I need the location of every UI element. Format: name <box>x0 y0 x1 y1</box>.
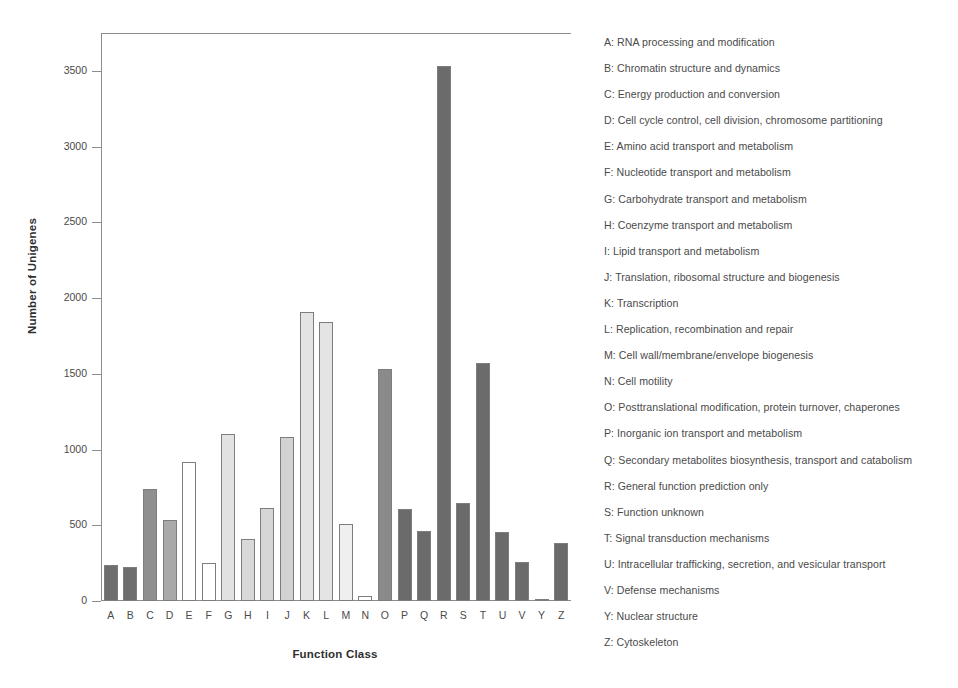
x-axis-tick-label: U <box>493 609 511 621</box>
legend-item: N: Cell motility <box>604 375 952 401</box>
x-axis-tick-label: C <box>141 609 159 621</box>
y-axis-tick: 3000 <box>92 147 101 148</box>
x-axis-tick-label: N <box>356 609 374 621</box>
x-axis-tick-label: S <box>454 609 472 621</box>
bar-u <box>495 532 509 601</box>
x-axis-tick-label: I <box>258 609 276 621</box>
bar-t <box>476 363 490 601</box>
x-axis-tick-label: R <box>435 609 453 621</box>
legend-item: M: Cell wall/membrane/envelope biogenesi… <box>604 349 952 375</box>
plot-area: 0500100015002000250030003500 <box>101 33 571 601</box>
legend-item: K: Transcription <box>604 297 952 323</box>
bar-j <box>280 437 294 601</box>
x-axis-title: Function Class <box>100 648 570 660</box>
bar-p <box>398 509 412 601</box>
legend-item: Y: Nuclear structure <box>604 610 952 636</box>
bar-q <box>417 531 431 601</box>
y-axis-tick-label: 3000 <box>64 140 87 152</box>
legend-item: I: Lipid transport and metabolism <box>604 245 952 271</box>
y-axis-tick-label: 1000 <box>64 443 87 455</box>
cog-function-classification-chart: Number of Unigenes 050010001500200025003… <box>0 0 600 688</box>
legend-item: O: Posttranslational modification, prote… <box>604 401 952 427</box>
y-axis-tick-label: 2500 <box>64 215 87 227</box>
x-axis-tick-label: T <box>474 609 492 621</box>
bar-l <box>319 322 333 601</box>
legend-item: U: Intracellular trafficking, secretion,… <box>604 558 952 584</box>
legend-item: A: RNA processing and modification <box>604 36 952 62</box>
x-axis-tick-label: O <box>376 609 394 621</box>
bar-o <box>378 369 392 602</box>
bar-a <box>104 565 118 601</box>
bar-h <box>241 539 255 601</box>
legend-item: T: Signal transduction mechanisms <box>604 532 952 558</box>
bar-f <box>202 563 216 601</box>
bar-series <box>101 33 571 601</box>
x-axis-tick-label: J <box>278 609 296 621</box>
x-axis-tick-label: E <box>180 609 198 621</box>
legend-item: L: Replication, recombination and repair <box>604 323 952 349</box>
bar-b <box>123 567 137 601</box>
legend: A: RNA processing and modificationB: Chr… <box>604 36 952 662</box>
y-axis-tick-label: 1500 <box>64 367 87 379</box>
y-axis-title: Number of Unigenes <box>26 176 38 376</box>
y-axis-tick: 1000 <box>92 450 101 451</box>
bar-k <box>300 312 314 601</box>
y-axis-tick: 1500 <box>92 374 101 375</box>
x-axis-tick-label: B <box>121 609 139 621</box>
x-axis-tick-label: P <box>396 609 414 621</box>
x-axis-tick-label: H <box>239 609 257 621</box>
bar-g <box>221 434 235 601</box>
y-axis-tick-label: 3500 <box>64 64 87 76</box>
legend-item: V: Defense mechanisms <box>604 584 952 610</box>
bar-i <box>260 508 274 601</box>
y-axis-tick-label: 500 <box>69 518 87 530</box>
bar-c <box>143 489 157 601</box>
x-axis-tick-label: G <box>219 609 237 621</box>
legend-item: Z: Cytoskeleton <box>604 636 952 662</box>
legend-item: Q: Secondary metabolites biosynthesis, t… <box>604 454 952 480</box>
bar-z <box>554 543 568 601</box>
legend-item: B: Chromatin structure and dynamics <box>604 62 952 88</box>
y-axis-tick: 2500 <box>92 222 101 223</box>
legend-item: D: Cell cycle control, cell division, ch… <box>604 114 952 140</box>
x-axis-tick-label: L <box>317 609 335 621</box>
x-axis-tick-label: Y <box>533 609 551 621</box>
legend-item: H: Coenzyme transport and metabolism <box>604 219 952 245</box>
legend-item: C: Energy production and conversion <box>604 88 952 114</box>
y-axis-tick: 2000 <box>92 298 101 299</box>
x-axis-tick-label: M <box>337 609 355 621</box>
legend-item: E: Amino acid transport and metabolism <box>604 140 952 166</box>
bar-e <box>182 462 196 601</box>
x-axis-tick-label: F <box>200 609 218 621</box>
y-axis-tick: 3500 <box>92 71 101 72</box>
legend-item: P: Inorganic ion transport and metabolis… <box>604 427 952 453</box>
legend-item: G: Carbohydrate transport and metabolism <box>604 193 952 219</box>
x-axis-tick-label: D <box>161 609 179 621</box>
x-axis-tick-label: Q <box>415 609 433 621</box>
legend-item: R: General function prediction only <box>604 480 952 506</box>
x-axis-tick-label: V <box>513 609 531 621</box>
x-axis-tick-label: A <box>102 609 120 621</box>
legend-item: S: Function unknown <box>604 506 952 532</box>
x-axis-tick-label: K <box>298 609 316 621</box>
bar-r <box>437 66 451 601</box>
x-axis-tick-label: Z <box>552 609 570 621</box>
bar-s <box>456 503 470 601</box>
bar-d <box>163 520 177 601</box>
bar-m <box>339 524 353 601</box>
y-axis-tick: 500 <box>92 525 101 526</box>
legend-item: F: Nucleotide transport and metabolism <box>604 166 952 192</box>
y-axis-tick: 0 <box>92 601 101 602</box>
y-axis-tick-label: 2000 <box>64 291 87 303</box>
y-axis-tick-label: 0 <box>81 594 87 606</box>
x-axis-ticks: ABCDEFGHIJKLMNOPQRSTUVYZ <box>101 601 571 631</box>
bar-v <box>515 562 529 601</box>
legend-item: J: Translation, ribosomal structure and … <box>604 271 952 297</box>
